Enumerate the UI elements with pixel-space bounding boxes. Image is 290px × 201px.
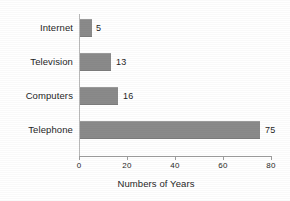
- x-axis-title: Numbers of Years: [0, 178, 290, 190]
- x-tick-mark-40: [175, 157, 176, 160]
- category-label-television: Television: [30, 56, 73, 68]
- bar-chart: 0 20 40 60 80 Internet Television Comput…: [0, 0, 290, 201]
- bar-value-computers: 16: [123, 90, 133, 102]
- bar-value-television: 13: [116, 56, 126, 68]
- x-tick-mark-20: [127, 157, 128, 160]
- bar-telephone: [80, 121, 260, 139]
- x-tick-mark-0: [79, 157, 80, 160]
- x-tick-label-80: 80: [259, 161, 283, 171]
- bar-computers: [80, 87, 118, 105]
- x-tick-label-60: 60: [211, 161, 235, 171]
- bar-internet: [80, 19, 92, 37]
- category-label-computers: Computers: [26, 90, 73, 102]
- x-tick-mark-80: [271, 157, 272, 160]
- bar-value-internet: 5: [96, 22, 101, 34]
- x-tick-label-40: 40: [163, 161, 187, 171]
- x-tick-label-0: 0: [67, 161, 91, 171]
- bar-value-telephone: 75: [265, 124, 275, 136]
- x-tick-mark-60: [223, 157, 224, 160]
- category-label-internet: Internet: [40, 22, 73, 34]
- bar-television: [80, 53, 111, 71]
- x-tick-label-20: 20: [115, 161, 139, 171]
- category-label-telephone: Telephone: [28, 124, 73, 136]
